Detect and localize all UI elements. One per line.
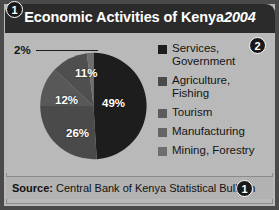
pie-label-manufacturing: 11% <box>75 67 97 79</box>
legend-swatch-icon <box>158 128 167 137</box>
pie-chart: 49% 26% 12% 11% <box>38 50 149 162</box>
legend-label: Agriculture, Fishing <box>172 74 230 100</box>
callout-badge-2[interactable]: 2 <box>249 37 266 54</box>
page-title: Economic Activities of Kenya2004 <box>5 9 275 25</box>
pie-label-mining: 2% <box>14 44 31 56</box>
legend-swatch-icon <box>158 45 167 54</box>
pie-label-tourism: 12% <box>55 94 78 106</box>
callout-badge-1-bottom[interactable]: 1 <box>236 180 253 197</box>
legend-swatch-icon <box>158 147 167 156</box>
pie-label-services: 49% <box>102 97 125 109</box>
legend-swatch-icon <box>158 77 167 86</box>
pie-label-agriculture: 26% <box>66 127 89 139</box>
figure-container: Economic Activities of Kenya2004 49% 26%… <box>0 0 279 210</box>
legend-label: Services, Government <box>172 42 235 68</box>
title-bar: Economic Activities of Kenya2004 <box>5 4 275 33</box>
legend-item-agriculture: Agriculture, Fishing <box>158 74 270 100</box>
legend-swatch-icon <box>158 109 167 118</box>
title-year-text: 2004 <box>224 9 256 25</box>
legend-item-mining: Mining, Forestry <box>158 144 270 157</box>
legend-label: Mining, Forestry <box>172 144 254 157</box>
source-bar: Source: Central Bank of Kenya Statistica… <box>6 176 273 199</box>
legend-item-tourism: Tourism <box>158 106 270 119</box>
title-main-text: Economic Activities of Kenya <box>24 9 224 25</box>
legend-label: Tourism <box>172 106 212 119</box>
source-note: Source: Central Bank of Kenya Statistica… <box>12 182 255 194</box>
legend-item-manufacturing: Manufacturing <box>158 125 270 138</box>
chart-legend: Services, Government Agriculture, Fishin… <box>158 42 270 163</box>
legend-label: Manufacturing <box>172 125 245 138</box>
source-value: Central Bank of Kenya Statistical Bullet… <box>53 182 255 194</box>
callout-badge-1-top[interactable]: 1 <box>6 1 23 18</box>
source-label: Source: <box>12 182 53 194</box>
leader-line <box>36 50 98 51</box>
